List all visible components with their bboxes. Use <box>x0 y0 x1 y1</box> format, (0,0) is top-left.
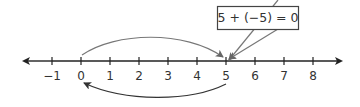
tick-label: −1 <box>43 69 61 83</box>
tick-label: 0 <box>77 69 85 83</box>
tick-label: 3 <box>164 69 172 83</box>
equation-label: 5 + (−5) = 0 <box>218 10 299 25</box>
tick-label: 1 <box>106 69 114 83</box>
tick-label: 4 <box>193 69 201 83</box>
tick-label: 8 <box>309 69 317 83</box>
tick-label: 5 <box>222 69 230 83</box>
tick-label: 7 <box>280 69 288 83</box>
callout-pointer-line <box>229 29 278 59</box>
number-line-diagram: −1 0 1 2 3 4 5 6 <box>0 0 360 107</box>
subtract-five-arc <box>84 83 226 97</box>
tick-label: 6 <box>251 69 259 83</box>
tick-label: 2 <box>135 69 143 83</box>
equation-callout: 5 + (−5) = 0 <box>218 7 299 30</box>
add-five-arc <box>82 37 223 57</box>
